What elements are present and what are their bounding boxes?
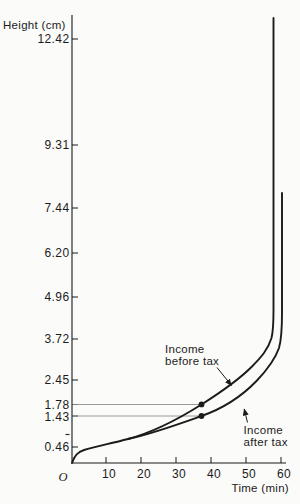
y-tick-label-9-31: 9.31 xyxy=(45,138,70,152)
y-tick-label-3-72: 3.72 xyxy=(45,332,70,346)
x-axis-title: Time (min) xyxy=(231,482,289,494)
y-tick-label-4-96: 4.96 xyxy=(45,290,70,304)
label-income-before-tax-line2: before tax xyxy=(165,355,219,367)
axes-lines xyxy=(72,15,286,463)
marked-point-before-tax xyxy=(199,402,205,408)
y-axis-title: Height (cm) xyxy=(3,19,66,31)
x-tick-label-10: 10 xyxy=(102,467,116,481)
x-tick-label-40: 40 xyxy=(207,467,221,481)
height-vs-time-chart: Height (cm) Time (min) O 12.42 9.31 7.44… xyxy=(0,0,300,504)
y-tick-label-7-44: 7.44 xyxy=(45,201,70,215)
y-tick-label-0-46: 0.46 xyxy=(45,440,70,454)
x-tick-label-50: 50 xyxy=(242,467,256,481)
origin-label: O xyxy=(58,470,67,484)
marked-point-after-tax xyxy=(199,413,205,419)
y-tick-label-6-20: 6.20 xyxy=(45,246,70,260)
arrow-to-before-tax-curve xyxy=(217,368,232,386)
label-income-after-tax-line1: Income xyxy=(244,424,284,436)
label-income-after-tax-line2: after tax xyxy=(244,436,288,448)
chart-canvas: Height (cm) Time (min) O 12.42 9.31 7.44… xyxy=(0,0,300,504)
arrow-to-after-tax-curve xyxy=(244,409,247,423)
x-axis-ticks xyxy=(106,457,281,463)
x-tick-label-60: 60 xyxy=(277,467,291,481)
curve-income-before-tax xyxy=(72,18,274,463)
y-axis-ticks xyxy=(72,39,78,447)
x-tick-label-30: 30 xyxy=(172,467,186,481)
y-tick-label-12-42: 12.42 xyxy=(37,32,69,46)
x-tick-label-20: 20 xyxy=(137,467,151,481)
y-tick-label-1-43: 1.43 xyxy=(45,410,70,424)
label-income-before-tax-line1: Income xyxy=(165,343,205,355)
y-tick-label-2-45: 2.45 xyxy=(45,373,70,387)
